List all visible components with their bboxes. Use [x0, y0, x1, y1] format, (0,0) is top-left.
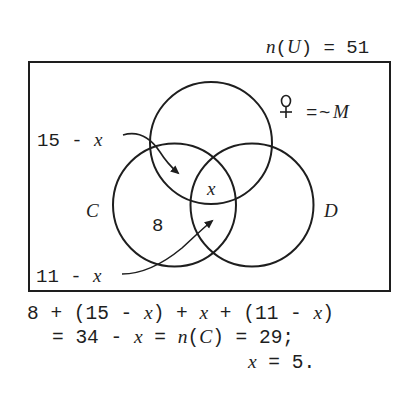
equation-line-1: 8 + (15 - x) + x + (11 - x)	[27, 302, 334, 325]
region-c-only-value: 8	[152, 215, 163, 237]
legend-set-m: M	[332, 101, 350, 122]
female-symbol-icon	[280, 96, 292, 119]
set-d-label: D	[323, 200, 338, 221]
legend-tilde: ~	[319, 102, 330, 124]
equation-line-3: x = 5.	[247, 351, 315, 374]
set-c-circle	[113, 144, 236, 267]
callout-11-minus-x: 11 - x	[36, 265, 102, 288]
venn-diagram: n(U) = 51 = ~ M C D 8 x 15 - x 11 - x 8 …	[0, 0, 420, 411]
universe-count-label: n(U) = 51	[266, 36, 369, 59]
legend-equals: =	[306, 102, 317, 124]
set-c-label: C	[86, 200, 99, 221]
legend-female-not-m: = ~ M	[280, 96, 350, 125]
equation-line-2: = 34 - x = n(C) = 29;	[52, 326, 294, 349]
region-center-value: x	[206, 178, 216, 199]
set-d-circle	[191, 144, 314, 267]
callout-15-minus-x: 15 - x	[37, 129, 103, 152]
